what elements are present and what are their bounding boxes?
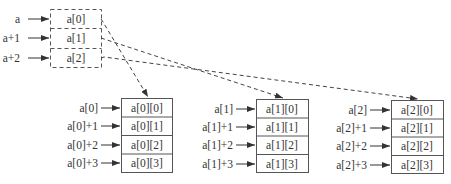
pointer-cell-2: a[2]	[67, 52, 86, 64]
row-pointer-label: a[1]	[214, 103, 233, 115]
links	[101, 19, 418, 99]
row-block-0: a[0][0] a[0][1] a[0][2] a[0][3] a[0] a[0…	[67, 99, 172, 173]
cell: a[2][3]	[401, 159, 433, 171]
pointer-label-1: a+1	[3, 32, 21, 44]
pointer-label-0: a	[15, 13, 20, 25]
cell: a[1][3]	[266, 158, 298, 170]
cell: a[0][3]	[131, 157, 163, 169]
pointer-cell-1: a[1]	[67, 32, 86, 44]
pointer-cell-0: a[0]	[67, 13, 86, 25]
row-pointer-label: a[0]+1	[67, 120, 98, 132]
cell: a[0][1]	[131, 120, 163, 132]
cell: a[0][0]	[131, 102, 163, 114]
cell: a[2][2]	[401, 140, 433, 152]
diagram-canvas: a[0] a[1] a[2] a a+1 a+2 a[0][0] a[0][1]…	[0, 0, 451, 184]
row-pointer-label: a[2]+3	[336, 159, 367, 171]
cell: a[1][0]	[266, 103, 298, 115]
row-pointer-label: a[2]+1	[336, 122, 367, 134]
link-a1	[101, 38, 283, 98]
cell: a[2][0]	[401, 104, 433, 116]
cell: a[0][2]	[131, 139, 163, 151]
array-diagram: a[0] a[1] a[2] a a+1 a+2 a[0][0] a[0][1]…	[0, 0, 451, 184]
row-block-1: a[1][0] a[1][1] a[1][2] a[1][3] a[1] a[1…	[202, 100, 308, 173]
pointer-label-2: a+2	[3, 52, 21, 64]
row-pointer-label: a[0]+3	[67, 157, 98, 169]
row-pointer-label: a[1]+3	[202, 158, 233, 170]
cell: a[2][1]	[401, 122, 433, 134]
row-pointer-label: a[2]+2	[336, 140, 367, 152]
row-block-2: a[2][0] a[2][1] a[2][2] a[2][3] a[2] a[2…	[336, 101, 443, 174]
row-pointer-label: a[1]+2	[202, 139, 233, 151]
row-pointer-label: a[2]	[348, 104, 367, 116]
link-a2	[101, 57, 418, 99]
pointer-array: a[0] a[1] a[2] a a+1 a+2	[3, 10, 102, 68]
cell: a[1][2]	[266, 139, 298, 151]
row-pointer-label: a[1]+1	[202, 121, 233, 133]
row-pointer-label: a[0]+2	[67, 139, 98, 151]
row-pointer-label: a[0]	[79, 102, 98, 114]
cell: a[1][1]	[266, 121, 298, 133]
